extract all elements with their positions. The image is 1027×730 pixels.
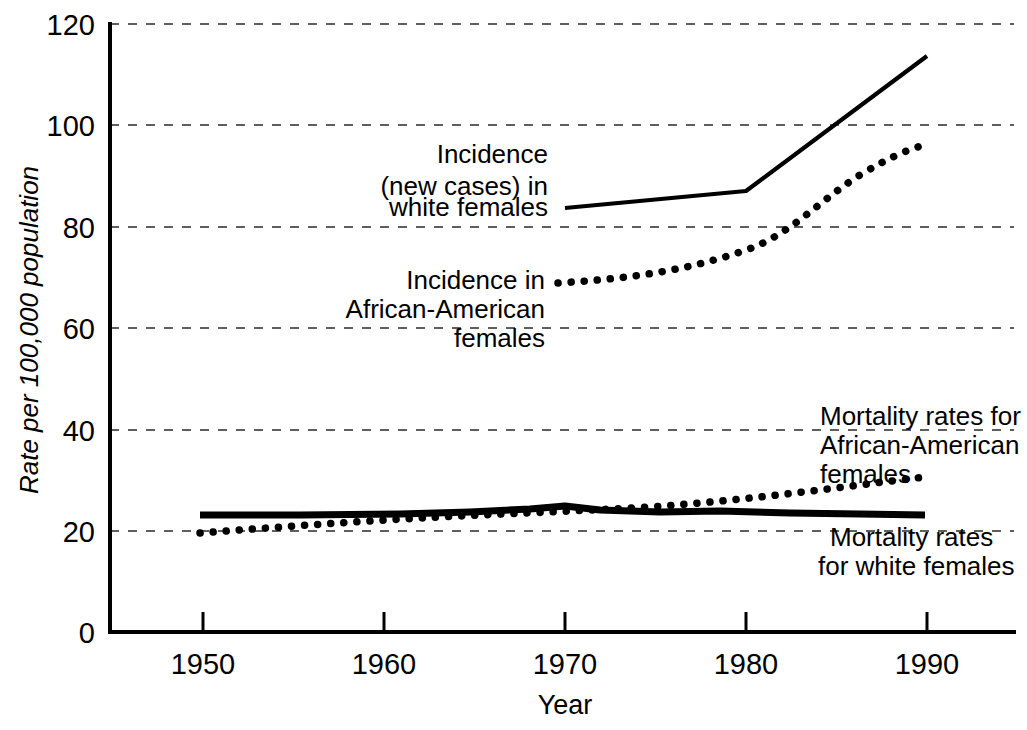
annotation-incidence-aa-line2: African-American xyxy=(346,294,545,324)
annotation-incidence-white-line1: Incidence xyxy=(437,139,548,169)
x-tick-labels: 1950 1960 1970 1980 1990 xyxy=(171,648,960,680)
y-tick-label-0: 0 xyxy=(79,617,95,649)
x-tick-label-1980: 1980 xyxy=(714,648,779,680)
series-mortality-white-females xyxy=(200,506,925,515)
annotation-incidence-white-line3: white females xyxy=(388,192,548,222)
annotation-incidence-african-american-females: Incidence in African-American females xyxy=(346,265,545,353)
annotation-mortality-aa-line1: Mortality rates for xyxy=(820,401,1021,431)
x-axis-title: Year xyxy=(538,690,593,720)
y-tick-label-100: 100 xyxy=(47,110,95,142)
annotation-mortality-white-line1: Mortality rates xyxy=(830,522,993,552)
series-incidence-white-females xyxy=(565,56,927,208)
x-tick-label-1960: 1960 xyxy=(352,648,417,680)
annotation-incidence-aa-line1: Incidence in xyxy=(406,265,545,295)
annotation-incidence-white-females: Incidence (new cases) in white females xyxy=(380,139,548,222)
y-axis-title: Rate per 100,000 population xyxy=(14,166,44,494)
annotation-incidence-aa-line3: females xyxy=(454,323,545,353)
y-tick-label-60: 60 xyxy=(63,313,95,345)
annotation-mortality-white-line2: for white females xyxy=(818,551,1015,581)
x-tick-label-1970: 1970 xyxy=(533,648,598,680)
x-axis-tick-marks xyxy=(203,612,927,632)
y-tick-label-120: 120 xyxy=(47,9,95,41)
y-tick-label-40: 40 xyxy=(63,415,95,447)
annotation-mortality-white-females: Mortality rates for white females xyxy=(818,522,1015,581)
annotation-mortality-aa-line3: females xyxy=(820,459,911,489)
y-tick-label-20: 20 xyxy=(63,516,95,548)
x-tick-label-1950: 1950 xyxy=(171,648,236,680)
x-tick-label-1990: 1990 xyxy=(895,648,960,680)
incidence-mortality-line-chart: 120 100 80 60 40 20 0 1950 1960 1970 198… xyxy=(0,0,1027,730)
y-tick-label-80: 80 xyxy=(63,212,95,244)
y-tick-labels: 120 100 80 60 40 20 0 xyxy=(47,9,95,649)
chart-figure: 120 100 80 60 40 20 0 1950 1960 1970 198… xyxy=(0,0,1027,730)
series-incidence-african-american-females xyxy=(558,145,925,283)
annotation-mortality-aa-line2: African-American xyxy=(820,430,1019,460)
